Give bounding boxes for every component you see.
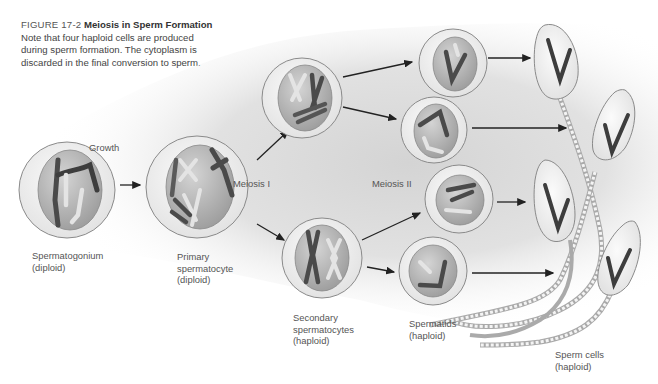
cell-spermatid-2 (401, 97, 467, 163)
label-spermatids: Spermatids (haploid) (409, 318, 456, 341)
cell-spermatid-1 (419, 29, 487, 97)
cell-spermatid-3 (425, 165, 493, 233)
label-spermatids-ploidy: (haploid) (409, 330, 456, 342)
label-primary-spermatocyte: Primary spermatocyte (diploid) (177, 251, 233, 286)
label-secondary-line1: Secondary (293, 312, 354, 324)
label-secondary-ploidy: (haploid) (293, 335, 354, 347)
label-spermatogonium: Spermatogonium (diploid) (32, 250, 103, 273)
label-meiosis-1: Meiosis I (233, 178, 270, 190)
label-spermatogonium-name: Spermatogonium (32, 250, 103, 262)
label-sperm-name: Sperm cells (555, 349, 604, 361)
label-meiosis-2: Meiosis II (372, 178, 412, 190)
label-primary-line2: spermatocyte (177, 263, 233, 275)
label-primary-ploidy: (diploid) (177, 274, 233, 286)
cell-spermatid-4 (399, 237, 467, 305)
label-secondary-line2: spermatocytes (293, 324, 354, 336)
label-sperm-cells: Sperm cells (haploid) (555, 349, 604, 372)
cell-secondary-spermatocyte-bottom (282, 218, 362, 298)
label-spermatogonium-ploidy: (diploid) (32, 262, 103, 274)
cell-secondary-spermatocyte-top (262, 58, 342, 138)
label-spermatids-name: Spermatids (409, 318, 456, 330)
label-secondary-spermatocytes: Secondary spermatocytes (haploid) (293, 312, 354, 347)
label-primary-line1: Primary (177, 251, 233, 263)
label-growth: Growth (89, 142, 119, 154)
label-sperm-ploidy: (haploid) (555, 361, 604, 373)
cell-spermatogonium (19, 142, 115, 238)
